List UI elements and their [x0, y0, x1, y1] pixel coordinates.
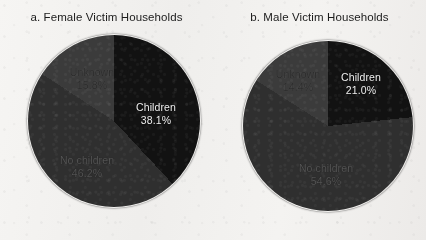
slice-label-male-no-children: No children 54.6% [299, 162, 353, 188]
slice-name-male-unknown: Unknown [276, 68, 320, 81]
slice-name-male-no-children: No children [299, 162, 353, 175]
chart-title-male: b. Male Victim Households [213, 11, 426, 24]
slice-name-female-no-children: No children [60, 154, 114, 167]
slice-pct-male-no-children: 54.6% [299, 175, 353, 188]
slice-pct-male-unknown: 14.4% [276, 81, 320, 94]
slice-pct-female-children: 38.1% [136, 114, 176, 127]
slice-label-female-unknown: Unknown 15.8% [70, 66, 114, 92]
chart-panel-male: b. Male Victim Households Unknown 14.4% … [213, 0, 426, 240]
slice-label-female-no-children: No children 46.2% [60, 154, 114, 180]
slice-pct-female-unknown: 15.8% [70, 79, 114, 92]
chart-title-female: a. Female Victim Households [0, 11, 213, 24]
slice-name-female-unknown: Unknown [70, 66, 114, 79]
slice-name-female-children: Children [136, 101, 176, 114]
slice-label-male-children: Children 21.0% [341, 71, 381, 97]
figure-canvas: a. Female Victim Households Unknown 15.8… [0, 0, 426, 240]
slice-name-male-children: Children [341, 71, 381, 84]
slice-pct-male-children: 21.0% [341, 84, 381, 97]
slice-label-male-unknown: Unknown 14.4% [276, 68, 320, 94]
slice-pct-female-no-children: 46.2% [60, 167, 114, 180]
slice-label-female-children: Children 38.1% [136, 101, 176, 127]
chart-panel-female: a. Female Victim Households Unknown 15.8… [0, 0, 213, 240]
